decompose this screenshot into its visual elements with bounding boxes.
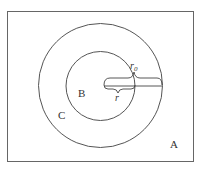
concentric-circles-diagram: r0 r B C A bbox=[0, 0, 204, 174]
region-a-boundary bbox=[8, 12, 194, 162]
outer-circle bbox=[39, 24, 163, 148]
r-label: r bbox=[115, 92, 119, 103]
region-b-label: B bbox=[78, 87, 85, 99]
region-c-label: C bbox=[58, 109, 65, 121]
region-a-label: A bbox=[170, 138, 178, 150]
